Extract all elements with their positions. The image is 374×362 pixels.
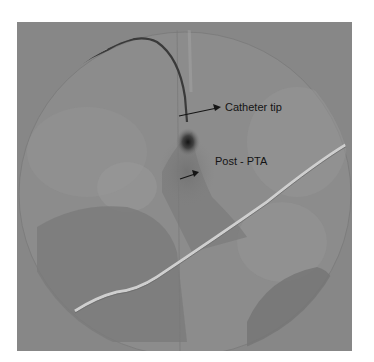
angiogram-image: Catheter tip Post - PTA <box>17 22 352 351</box>
angiogram-graphic <box>17 22 352 351</box>
post-pta-label: Post - PTA <box>215 155 267 167</box>
catheter-tip-label: Catheter tip <box>225 101 282 113</box>
